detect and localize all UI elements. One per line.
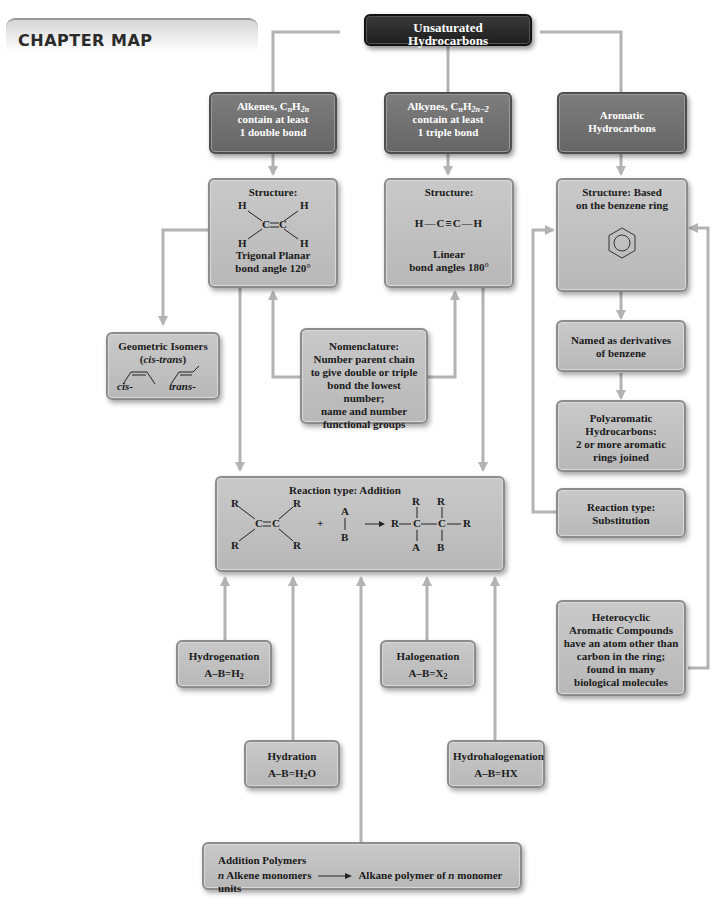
alkenes-formula: Alkenes, CnH2n: [215, 100, 331, 113]
root-label: Unsaturated Hydrocarbons: [408, 20, 488, 48]
category-alkenes: Alkenes, CnH2n contain at least 1 double…: [209, 92, 337, 154]
hydration: Hydration A–B=H2O: [244, 740, 340, 788]
halogenation: Halogenation A–B=X2: [380, 640, 476, 688]
nomenclature: Nomenclature: Number parent chain to giv…: [300, 328, 428, 424]
heterocyclic-aromatic-compounds: Heterocyclic Aromatic Compounds have an …: [556, 600, 686, 696]
aromatic-structure: Structure: Based on the benzene ring: [556, 178, 688, 292]
cis-trans-diagram: cis- trans-: [113, 366, 213, 392]
plus-sign: +: [317, 517, 323, 530]
chapter-map-title: CHAPTER MAP: [18, 31, 153, 50]
ethene-structure-diagram: H H H H C C: [228, 199, 318, 249]
polyaromatic-hydrocarbons: Polyaromatic Hydrocarbons: 2 or more aro…: [556, 400, 686, 472]
addition-polymers: Addition Polymers n Alkene monomers Alka…: [202, 842, 522, 890]
reaction-type-substitution: Reaction type: Substitution: [556, 488, 686, 538]
named-as-derivatives: Named as derivatives of benzene: [556, 320, 686, 372]
cis-trans-subtitle: (cis-trans): [112, 353, 214, 366]
halogenation-equation: A–B=X2: [386, 667, 470, 680]
benzene-ring-icon: [605, 226, 639, 260]
hydrohalogenation-equation: A–B=HX: [453, 767, 539, 780]
geometric-isomers: Geometric Isomers (cis-trans) cis- trans…: [106, 332, 220, 400]
chapter-map-header: CHAPTER MAP: [6, 18, 258, 52]
category-aromatic-hydrocarbons: Aromatic Hydrocarbons: [557, 92, 687, 154]
reaction-type-addition: Reaction type: Addition R: [215, 476, 505, 572]
category-alkynes: Alkynes, CnH2n−2 contain at least 1 trip…: [384, 92, 512, 154]
hydrogenation-equation: A–B=H2: [182, 667, 266, 680]
ethyne-formula: H—C≡C—H: [390, 217, 508, 230]
reaction-bond-lines: [221, 497, 501, 563]
cis-label: cis-: [117, 380, 133, 393]
alkynes-formula: Alkynes, CnH2n−2: [390, 100, 506, 113]
alkyne-structure: Structure: H—C≡C—H Linear bond angles 18…: [384, 178, 514, 288]
hydrogenation: Hydrogenation A–B=H2: [176, 640, 272, 688]
addition-reaction-equation: R R R R C C + A B R C C R R R A B: [221, 497, 501, 563]
root-node-unsaturated-hydrocarbons: Unsaturated Hydrocarbons: [364, 14, 532, 46]
hydrohalogenation: Hydrohalogenation A–B=HX: [447, 740, 545, 788]
reaction-arrow-icon: [318, 872, 352, 880]
trans-label: trans-: [169, 380, 196, 393]
alkene-structure: Structure: H H H H C C Trigonal Planar b…: [208, 178, 338, 288]
hydration-equation: A–B=H2O: [250, 767, 334, 780]
polymer-equation: n Alkene monomers Alkane polymer of n mo…: [218, 869, 506, 895]
